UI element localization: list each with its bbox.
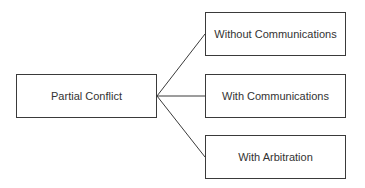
child-node-with-communications: With Communications	[205, 74, 346, 118]
root-node-label: Partial Conflict	[51, 90, 122, 102]
child-node-label: Without Communications	[214, 28, 336, 40]
child-node-with-arbitration: With Arbitration	[205, 135, 346, 179]
connector-with-arbitration	[157, 96, 205, 157]
connector-without-communications	[157, 34, 205, 96]
child-node-without-communications: Without Communications	[205, 12, 346, 56]
child-node-label: With Communications	[222, 90, 329, 102]
root-node-partial-conflict: Partial Conflict	[16, 74, 157, 118]
child-node-label: With Arbitration	[238, 151, 313, 163]
